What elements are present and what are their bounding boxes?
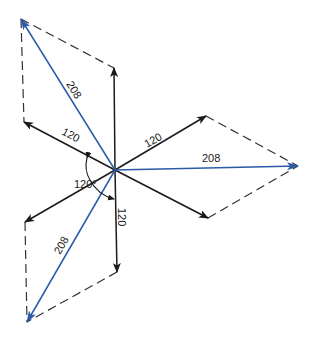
dashed-line [208,166,298,218]
line-vector-upper-left-arrow [21,19,115,170]
label-angle: 120° [74,178,97,190]
dashed-line [27,272,117,322]
phase-vector-upper-right-arrow [115,116,206,170]
label-line-right: 208 [202,152,220,164]
phasor-diagram: 208 120 120 208 120° 120 208 [0,0,313,337]
label-line-upper-left: 208 [64,79,84,101]
label-phase-upper-right: 120 [142,130,164,150]
line-vectors [21,19,298,322]
construction-lines [21,19,298,322]
dashed-line [25,222,27,322]
dashed-line [21,19,114,68]
line-vector-lower-left-arrow [27,170,115,322]
label-phase-down: 120 [116,208,128,226]
dashed-line [21,19,24,122]
phase-vector-up-arrow [114,68,115,170]
line-vector-right-arrow [115,166,298,170]
phase-vector-lower-left-arrow [25,170,115,222]
label-phase-upper-left: 120 [60,125,82,144]
